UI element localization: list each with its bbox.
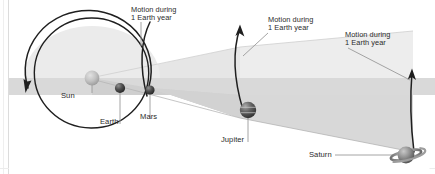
earth-body xyxy=(115,83,125,93)
annotation-motion-mars-line2: 1 Earth year xyxy=(131,14,176,22)
planetary-motion-diagram: Motion during 1 Earth year Motion during… xyxy=(0,0,435,174)
wedge-cut-lower-left xyxy=(9,95,240,174)
orbit-halo xyxy=(24,26,160,78)
jupiter-motion-arrowhead xyxy=(235,25,244,37)
annotation-motion-mars: Motion during 1 Earth year xyxy=(131,6,176,23)
body-label-saturn: Saturn xyxy=(309,151,332,160)
sun-body xyxy=(85,71,100,86)
diagram-canvas xyxy=(0,0,435,174)
body-label-jupiter: Jupiter xyxy=(221,136,244,145)
body-label-earth: Earth xyxy=(100,118,118,127)
jupiter-body xyxy=(240,102,256,118)
body-label-sun: Sun xyxy=(61,92,75,101)
annotation-motion-jupiter-line2: 1 Earth year xyxy=(268,24,313,32)
mars-body xyxy=(145,85,154,94)
body-label-mars: Mars xyxy=(140,113,157,122)
annotation-motion-saturn: Motion during 1 Earth year xyxy=(345,31,390,48)
annotation-motion-jupiter: Motion during 1 Earth year xyxy=(268,16,313,33)
annotation-motion-saturn-line2: 1 Earth year xyxy=(345,39,390,47)
